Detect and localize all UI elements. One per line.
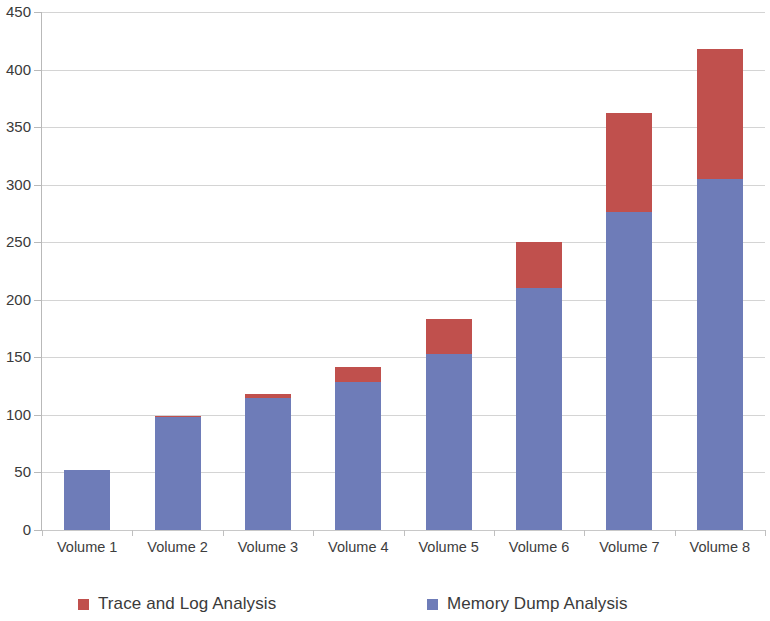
gridline bbox=[42, 127, 765, 128]
x-axis-tick bbox=[765, 530, 766, 536]
gridline bbox=[42, 357, 765, 358]
y-axis-tick bbox=[34, 242, 42, 243]
bar-stack[interactable] bbox=[335, 367, 381, 530]
x-axis-label: Volume 5 bbox=[404, 538, 494, 556]
y-axis-tick bbox=[34, 70, 42, 71]
x-axis-tick bbox=[404, 530, 405, 536]
y-axis-tick-label: 300 bbox=[1, 177, 31, 192]
bar-segment-memory-dump-analysis[interactable] bbox=[245, 398, 291, 530]
y-axis-tick bbox=[34, 12, 42, 13]
legend-label: Trace and Log Analysis bbox=[98, 594, 276, 614]
x-axis-tick bbox=[223, 530, 224, 536]
y-axis-tick-label: 200 bbox=[1, 292, 31, 307]
x-axis-label: Volume 4 bbox=[313, 538, 403, 556]
x-axis-label: Volume 3 bbox=[223, 538, 313, 556]
y-axis-tick-label: 50 bbox=[1, 464, 31, 479]
y-axis-tick-label: 350 bbox=[1, 119, 31, 134]
x-axis-label: Volume 6 bbox=[494, 538, 584, 556]
gridline bbox=[42, 300, 765, 301]
x-axis-tick bbox=[132, 530, 133, 536]
stacked-bar-chart: 050100150200250300350400450 Volume 1Volu… bbox=[0, 0, 770, 621]
x-axis-tick bbox=[313, 530, 314, 536]
bar-stack[interactable] bbox=[606, 113, 652, 530]
bar-segment-memory-dump-analysis[interactable] bbox=[64, 470, 110, 530]
y-axis-tick bbox=[34, 472, 42, 473]
bar-segment-trace-and-log-analysis[interactable] bbox=[697, 49, 743, 179]
y-axis-tick-label: 0 bbox=[1, 522, 31, 537]
bar-stack[interactable] bbox=[426, 319, 472, 530]
bar-segment-trace-and-log-analysis[interactable] bbox=[426, 319, 472, 354]
y-axis-tick bbox=[34, 300, 42, 301]
legend-swatch-trace-and-log-analysis bbox=[78, 599, 89, 610]
bar-segment-memory-dump-analysis[interactable] bbox=[516, 288, 562, 530]
gridline bbox=[42, 12, 765, 13]
bar-stack[interactable] bbox=[516, 242, 562, 530]
y-axis-tick bbox=[34, 357, 42, 358]
bar-stack[interactable] bbox=[245, 394, 291, 530]
gridline bbox=[42, 415, 765, 416]
x-axis-tick bbox=[675, 530, 676, 536]
x-axis-tick bbox=[584, 530, 585, 536]
gridline bbox=[42, 242, 765, 243]
x-axis-label: Volume 2 bbox=[132, 538, 222, 556]
legend-swatch-memory-dump-analysis bbox=[427, 599, 438, 610]
bar-segment-trace-and-log-analysis[interactable] bbox=[155, 416, 201, 417]
bar-segment-memory-dump-analysis[interactable] bbox=[335, 382, 381, 530]
bar-segment-memory-dump-analysis[interactable] bbox=[697, 179, 743, 530]
x-axis-label: Volume 7 bbox=[584, 538, 674, 556]
y-axis-tick bbox=[34, 185, 42, 186]
x-axis-label: Volume 1 bbox=[42, 538, 132, 556]
bar-segment-trace-and-log-analysis[interactable] bbox=[516, 242, 562, 288]
y-axis-tick-label: 400 bbox=[1, 62, 31, 77]
bar-segment-memory-dump-analysis[interactable] bbox=[606, 212, 652, 530]
gridline bbox=[42, 185, 765, 186]
y-axis-tick bbox=[34, 415, 42, 416]
bar-segment-trace-and-log-analysis[interactable] bbox=[335, 367, 381, 382]
y-axis-tick-label: 250 bbox=[1, 234, 31, 249]
gridline bbox=[42, 70, 765, 71]
y-axis-tick-label: 450 bbox=[1, 4, 31, 19]
legend-label: Memory Dump Analysis bbox=[447, 594, 628, 614]
x-axis-tick bbox=[494, 530, 495, 536]
y-axis-labels: 050100150200250300350400450 bbox=[0, 0, 31, 621]
bar-stack[interactable] bbox=[697, 49, 743, 530]
y-axis-tick-label: 150 bbox=[1, 349, 31, 364]
x-axis-label: Volume 8 bbox=[675, 538, 765, 556]
y-axis-tick bbox=[34, 127, 42, 128]
y-axis-tick-label: 100 bbox=[1, 407, 31, 422]
gridline bbox=[42, 472, 765, 473]
bar-segment-trace-and-log-analysis[interactable] bbox=[245, 394, 291, 397]
bar-stack[interactable] bbox=[155, 416, 201, 530]
bar-segment-memory-dump-analysis[interactable] bbox=[426, 354, 472, 530]
bar-segment-memory-dump-analysis[interactable] bbox=[155, 417, 201, 530]
y-axis-tick bbox=[34, 530, 42, 531]
legend-item[interactable]: Trace and Log Analysis bbox=[78, 592, 276, 616]
chart-legend: Trace and Log Analysis Memory Dump Analy… bbox=[0, 592, 770, 621]
legend-item[interactable]: Memory Dump Analysis bbox=[427, 592, 628, 616]
x-axis-tick bbox=[42, 530, 43, 536]
plot-area bbox=[42, 12, 765, 530]
bar-stack[interactable] bbox=[64, 470, 110, 530]
bar-segment-trace-and-log-analysis[interactable] bbox=[606, 113, 652, 212]
